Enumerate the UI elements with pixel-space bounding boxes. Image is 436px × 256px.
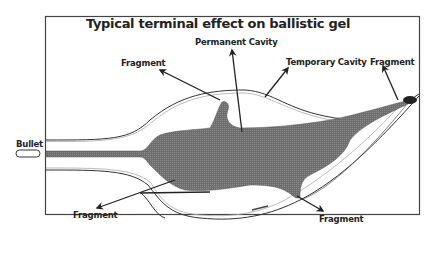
label-fragment-bottom-left: Fragment — [73, 210, 117, 220]
arrow-fragment-top-left — [160, 70, 220, 100]
arrow-fragment-top-right — [383, 66, 398, 100]
diagram-title: Typical terminal effect on ballistic gel — [0, 16, 436, 31]
label-fragment-top-left: Fragment — [121, 58, 165, 68]
label-fragment-bottom-right: Fragment — [319, 214, 363, 224]
arrow-fragment-bottom-right — [297, 196, 323, 211]
arrow-temporary-cavity — [265, 68, 288, 97]
arrow-fragment-bottom-left — [97, 180, 175, 208]
label-permanent-cavity: Permanent Cavity — [195, 37, 278, 47]
label-temporary-cavity: Temporary Cavity — [286, 57, 367, 67]
bullet-icon — [16, 150, 40, 157]
label-fragment-top-right: Fragment — [370, 57, 414, 67]
arrow-permanent-cavity — [232, 50, 242, 132]
label-bullet: Bullet — [16, 139, 43, 149]
